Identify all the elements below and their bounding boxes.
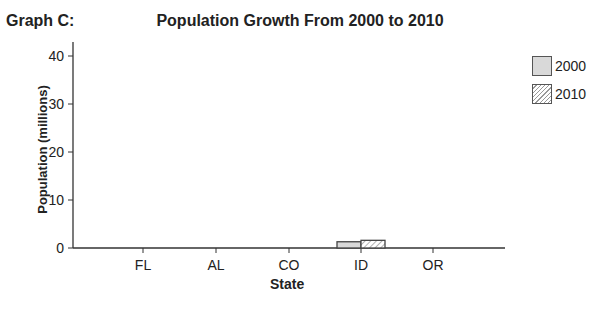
y-tick-label: 10 (48, 192, 64, 208)
y-tick-label: 20 (48, 144, 64, 160)
x-tick-label: FL (135, 257, 152, 273)
legend-label: 2000 (555, 58, 586, 74)
y-tick-label: 30 (48, 96, 64, 112)
legend-item-2010: 2010 (532, 84, 586, 104)
y-axis-label: Population (millions) (35, 80, 50, 220)
chart-plot: 010203040FLALCOIDOR (0, 0, 609, 312)
y-tick-label: 0 (56, 240, 64, 256)
y-tick-label: 40 (48, 48, 64, 64)
legend-label: 2010 (555, 86, 586, 102)
legend-item-2000: 2000 (532, 56, 586, 76)
legend-swatch-2010 (532, 84, 552, 104)
x-axis-label: State (270, 276, 304, 292)
x-tick-label: OR (423, 257, 444, 273)
bar-2000-ID (337, 242, 361, 248)
legend-swatch-2000 (532, 56, 552, 76)
x-tick-label: AL (207, 257, 224, 273)
x-tick-label: CO (279, 257, 300, 273)
x-tick-label: ID (354, 257, 368, 273)
bar-2010-ID (361, 240, 385, 248)
